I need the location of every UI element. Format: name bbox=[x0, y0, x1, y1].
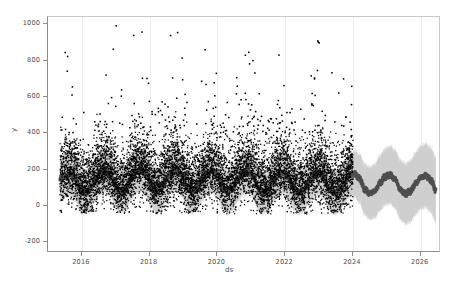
plot-area bbox=[47, 16, 440, 252]
x-tick-label: 2026 bbox=[400, 258, 440, 266]
x-tick-label: 2020 bbox=[196, 258, 236, 266]
x-tick-mark bbox=[216, 252, 217, 256]
x-tick-mark bbox=[420, 252, 421, 256]
series-canvas bbox=[48, 17, 440, 252]
forecast-chart-figure: y ds -20002004006008001000 2016201820202… bbox=[0, 0, 458, 283]
x-tick-mark bbox=[149, 252, 150, 256]
x-tick-mark bbox=[352, 252, 353, 256]
y-tick-label: 400 bbox=[0, 128, 40, 136]
y-tick-label: -200 bbox=[0, 237, 40, 245]
x-tick-label: 2016 bbox=[61, 258, 101, 266]
y-tick-label: 800 bbox=[0, 56, 40, 64]
y-tick-label: 200 bbox=[0, 165, 40, 173]
x-tick-label: 2018 bbox=[129, 258, 169, 266]
x-tick-mark bbox=[284, 252, 285, 256]
x-axis-label: ds bbox=[0, 266, 458, 274]
x-tick-label: 2022 bbox=[264, 258, 304, 266]
y-tick-label: 0 bbox=[0, 201, 40, 209]
y-tick-label: 600 bbox=[0, 92, 40, 100]
x-tick-mark bbox=[81, 252, 82, 256]
y-tick-label: 1000 bbox=[0, 19, 40, 27]
x-tick-label: 2024 bbox=[332, 258, 372, 266]
